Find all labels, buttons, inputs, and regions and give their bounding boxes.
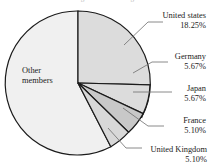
pie-label-united-states: United states 18.25% (163, 11, 207, 30)
pie-label-france: France 5.10% (183, 116, 206, 135)
pie-label-japan-value: 5.67% (184, 94, 206, 104)
pie-label-france-name: France (183, 116, 206, 125)
pie-label-other-members-name-line2: members (22, 76, 53, 85)
pie-label-germany-value: 5.67% (175, 62, 206, 72)
pie-label-france-value: 5.10% (183, 126, 206, 136)
pie-label-germany-name: Germany (175, 52, 206, 61)
pie-label-united-states-name: United states (163, 11, 207, 20)
pie-label-japan: Japan 5.67% (184, 84, 206, 103)
pie-label-germany: Germany 5.67% (175, 52, 206, 71)
pie-label-united-kingdom-name: United Kingdom (150, 145, 207, 154)
pie-label-united-kingdom-value: 5.10% (150, 155, 207, 165)
pie-label-united-states-value: 18.25% (163, 21, 207, 31)
pie-label-japan-name: Japan (187, 84, 206, 93)
pie-label-united-kingdom: United Kingdom 5.10% (150, 145, 207, 164)
pie-label-other-members-name-line1: Other (22, 66, 41, 75)
pie-chart-figure: Percentage of Total Voting Share United … (0, 0, 208, 168)
pie-label-other-members: Other members (22, 66, 53, 85)
